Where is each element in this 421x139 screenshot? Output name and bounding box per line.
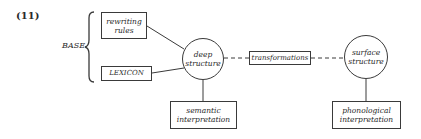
transformations-node: transformations: [249, 51, 311, 65]
deep-structure-line2: structure: [185, 59, 220, 68]
deep-structure-node: deep structure: [182, 38, 224, 80]
surface-structure-line1: surface: [352, 48, 380, 57]
example-number: (11): [16, 10, 39, 21]
surface-structure-node: surface structure: [344, 35, 388, 79]
edge-rewriting-to-deep: [147, 26, 184, 49]
lexicon-label: LEXICON: [109, 69, 144, 78]
deep-structure-line1: deep: [194, 50, 212, 59]
lexicon-node: LEXICON: [101, 66, 152, 81]
rewriting-rules-line1: rewriting: [106, 17, 141, 26]
surface-structure-line2: structure: [348, 57, 383, 66]
phonological-line1: phonological: [342, 106, 391, 115]
rewriting-rules-line2: rules: [114, 26, 133, 35]
transformations-label: transformations: [252, 54, 309, 63]
semantic-interpretation-node: semantic interpretation: [170, 101, 237, 129]
semantic-line1: semantic: [186, 106, 220, 115]
edge-lexicon-to-deep: [152, 68, 184, 73]
phonological-line2: interpretation: [340, 115, 393, 124]
base-label: BASE: [62, 41, 85, 50]
generative-grammar-diagram: (11) BASE rewriting rules LEXICON deep s…: [0, 0, 421, 139]
base-brace: [85, 12, 94, 82]
semantic-line2: interpretation: [177, 115, 230, 124]
rewriting-rules-node: rewriting rules: [101, 12, 147, 39]
phonological-interpretation-node: phonological interpretation: [332, 101, 401, 129]
